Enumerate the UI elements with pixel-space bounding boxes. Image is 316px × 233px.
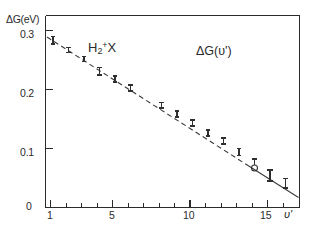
plot-canvas bbox=[0, 0, 316, 233]
data-point bbox=[221, 138, 225, 144]
axis-top-right bbox=[46, 16, 300, 208]
data-point bbox=[206, 130, 210, 136]
y-tick-label-0.2: 0.2 bbox=[20, 88, 34, 99]
data-point bbox=[190, 120, 194, 126]
chart-figure: ΔG(eV) 0 0.1 0.2 0.3 1 5 10 15 υ' H2+X Δ… bbox=[0, 0, 316, 233]
data-point bbox=[175, 111, 179, 117]
x-tick-label-10: 10 bbox=[183, 210, 194, 221]
annotation-function: ΔG(υ') bbox=[196, 45, 232, 58]
data-point bbox=[97, 68, 102, 76]
y-axis-label: ΔG(eV) bbox=[6, 14, 39, 25]
x-tick-label-1: 1 bbox=[47, 210, 53, 221]
y-tick-label-0: 0 bbox=[26, 201, 32, 212]
x-axis-label: υ' bbox=[284, 209, 292, 220]
x-tick-label-5: 5 bbox=[109, 210, 115, 221]
annotation-species: H2+X bbox=[88, 41, 116, 56]
x-axis-ticks bbox=[51, 200, 284, 208]
data-point bbox=[82, 57, 86, 62]
y-tick-label-0.3: 0.3 bbox=[20, 29, 34, 40]
annotation-species-element: H bbox=[88, 40, 97, 55]
y-tick-label-0.1: 0.1 bbox=[20, 147, 34, 158]
plot-frame bbox=[46, 16, 300, 208]
annotation-species-state: X bbox=[107, 40, 116, 55]
data-point bbox=[267, 170, 273, 181]
data-point bbox=[237, 149, 242, 156]
data-point bbox=[159, 103, 163, 109]
x-tick-label-15: 15 bbox=[260, 210, 271, 221]
data-point bbox=[128, 85, 132, 91]
y-axis-ticks bbox=[46, 31, 53, 208]
data-points bbox=[51, 37, 288, 189]
data-point bbox=[283, 179, 288, 189]
axis-left-bottom bbox=[46, 16, 300, 208]
data-point bbox=[51, 37, 56, 45]
